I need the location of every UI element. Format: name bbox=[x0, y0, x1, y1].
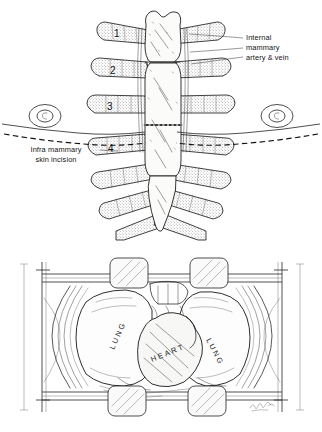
label-internal-mammary-line3: artery & vein bbox=[246, 53, 289, 62]
label-internal-mammary-line1: Internal bbox=[246, 33, 272, 42]
sternum-body bbox=[145, 63, 181, 176]
rib-number-4: 4 bbox=[108, 143, 114, 154]
nipple-areola-right bbox=[261, 105, 293, 128]
artist-signature bbox=[250, 402, 274, 411]
label-incision-line2: skin incision bbox=[35, 155, 76, 164]
rib-number-1: 1 bbox=[114, 28, 120, 39]
rib-number-3: 3 bbox=[107, 101, 113, 112]
label-incision-line1: Infra mammary bbox=[31, 145, 82, 154]
panel-anterior-chest-wall: Internal mammary artery & vein Infra mam… bbox=[0, 0, 322, 240]
panel-retracted-thorax: LUNG LUNG HEART bbox=[0, 240, 322, 432]
label-internal-mammary-line2: mammary bbox=[246, 43, 280, 52]
nipple-areola-left bbox=[29, 105, 61, 128]
manubrium bbox=[145, 11, 181, 62]
retractor-rail-upper bbox=[42, 274, 282, 282]
top-panel-canvas: Internal mammary artery & vein Infra mam… bbox=[0, 0, 322, 240]
bottom-panel-canvas: LUNG LUNG HEART bbox=[0, 240, 322, 432]
rib-number-2: 2 bbox=[110, 65, 116, 76]
surgical-illustration-figure: Internal mammary artery & vein Infra mam… bbox=[0, 0, 322, 432]
